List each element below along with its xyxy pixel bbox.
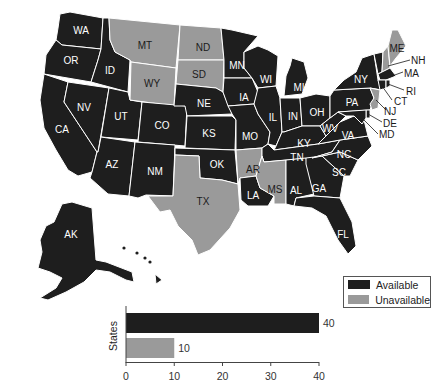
svg-text:OK: OK	[210, 159, 225, 170]
bar-value-available: 40	[323, 317, 335, 329]
svg-text:AK: AK	[64, 229, 78, 240]
svg-text:NE: NE	[197, 98, 211, 109]
svg-text:SC: SC	[332, 167, 346, 178]
svg-text:IN: IN	[288, 111, 298, 122]
legend-swatch-available	[348, 280, 370, 289]
legend-item-available: Available	[344, 277, 430, 292]
svg-text:WV: WV	[322, 123, 338, 134]
svg-text:MA: MA	[404, 68, 419, 79]
svg-text:ND: ND	[196, 42, 210, 53]
svg-text:KY: KY	[297, 138, 311, 149]
svg-text:RI: RI	[406, 86, 416, 97]
state-HI-islands	[143, 256, 146, 259]
x-tick-label: 10	[168, 370, 180, 382]
svg-text:LA: LA	[247, 190, 260, 201]
state-FL[interactable]	[294, 196, 356, 254]
svg-text:NV: NV	[77, 102, 91, 113]
svg-text:GA: GA	[312, 183, 327, 194]
svg-text:ID: ID	[105, 65, 115, 76]
svg-text:OH: OH	[310, 107, 325, 118]
svg-text:NJ: NJ	[384, 106, 396, 117]
bar-unavailable	[126, 338, 174, 358]
svg-text:AL: AL	[290, 185, 303, 196]
svg-text:NY: NY	[354, 74, 368, 85]
svg-text:MS: MS	[268, 184, 283, 195]
svg-text:FL: FL	[337, 229, 349, 240]
legend-label: Unavailable	[375, 294, 430, 306]
svg-text:WI: WI	[260, 74, 272, 85]
svg-text:MN: MN	[229, 60, 245, 71]
svg-text:VT: VT	[367, 43, 380, 54]
x-tick-label: 30	[265, 370, 277, 382]
svg-text:ME: ME	[390, 43, 405, 54]
svg-text:MT: MT	[138, 40, 152, 51]
x-tick-label: 20	[217, 370, 229, 382]
svg-text:WA: WA	[73, 25, 89, 36]
svg-text:NM: NM	[147, 166, 163, 177]
x-ticks: 010203040	[123, 362, 325, 382]
svg-text:IA: IA	[239, 92, 249, 103]
state-CT[interactable]	[378, 80, 386, 90]
us-map: WA OR CA ID NV UT AZ MT WY CO NM ND SD N…	[0, 0, 441, 391]
state-HI-islands	[122, 246, 125, 249]
svg-text:TX: TX	[197, 196, 210, 207]
svg-text:UT: UT	[114, 111, 127, 122]
svg-text:VA: VA	[342, 130, 355, 141]
svg-text:MD: MD	[379, 129, 395, 140]
state-HI-islands	[148, 260, 151, 263]
legend-label: Available	[376, 279, 418, 291]
svg-text:CO: CO	[155, 120, 170, 131]
svg-text:DE: DE	[383, 118, 397, 129]
svg-text:MO: MO	[242, 131, 258, 142]
x-tick-label: 0	[123, 370, 129, 382]
legend-swatch-unavailable	[348, 295, 369, 304]
svg-text:MI: MI	[293, 82, 304, 93]
legend: Available Unavailable	[343, 276, 431, 308]
bar-value-unavailable: 10	[178, 342, 190, 354]
svg-text:PA: PA	[346, 97, 359, 108]
y-axis-label: States	[107, 321, 119, 351]
svg-text:IL: IL	[269, 112, 278, 123]
state-AK[interactable]	[38, 202, 134, 300]
svg-text:WY: WY	[144, 78, 160, 89]
svg-text:OR: OR	[64, 55, 79, 66]
svg-text:NH: NH	[411, 55, 425, 66]
legend-item-unavailable: Unavailable	[344, 292, 430, 307]
svg-text:NC: NC	[337, 149, 351, 160]
svg-text:TN: TN	[290, 152, 303, 163]
svg-text:AZ: AZ	[106, 159, 119, 170]
bar-chart: 40 10 010203040 States	[107, 306, 335, 382]
svg-text:CA: CA	[55, 124, 69, 135]
state-HI-islands	[135, 251, 138, 254]
svg-text:HI: HI	[156, 258, 166, 269]
x-tick-label: 40	[313, 370, 325, 382]
bar-available	[126, 313, 319, 333]
svg-text:AR: AR	[246, 164, 260, 175]
state-HI[interactable]	[155, 274, 162, 284]
svg-text:SD: SD	[192, 69, 206, 80]
svg-text:KS: KS	[202, 128, 216, 139]
